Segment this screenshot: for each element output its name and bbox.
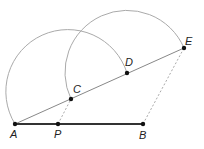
point-a: [13, 122, 17, 126]
label-b: B: [139, 129, 146, 141]
point-b: [141, 122, 145, 126]
label-d: D: [125, 56, 133, 68]
point-d: [125, 71, 129, 75]
segment-pc-dashed: [58, 99, 71, 124]
geometry-diagram: A P B C D E: [0, 0, 204, 149]
label-c: C: [73, 83, 81, 95]
label-p: P: [54, 128, 62, 140]
arc-centered-c: [6, 30, 127, 124]
segment-ae: [15, 48, 184, 124]
point-p: [56, 122, 60, 126]
label-a: A: [9, 128, 17, 140]
label-e: E: [185, 35, 193, 47]
arc-centered-d: [65, 10, 184, 99]
point-c: [69, 97, 73, 101]
segment-be-dashed: [143, 48, 184, 124]
